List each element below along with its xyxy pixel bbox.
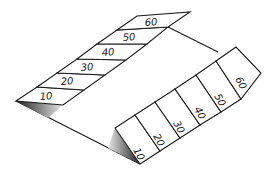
- left-label-50: 50: [122, 31, 135, 43]
- left-label-60: 60: [144, 16, 157, 28]
- left-label-20: 20: [60, 75, 73, 87]
- diagram-canvas: 10 20 30 40 50 60 10 20 30 40 50 60: [0, 0, 275, 172]
- folded-strip-diagram: 10 20 30 40 50 60 10 20 30 40 50 60: [0, 0, 275, 172]
- left-label-30: 30: [80, 61, 93, 73]
- left-label-40: 40: [101, 46, 114, 58]
- left-label-10: 10: [39, 90, 52, 102]
